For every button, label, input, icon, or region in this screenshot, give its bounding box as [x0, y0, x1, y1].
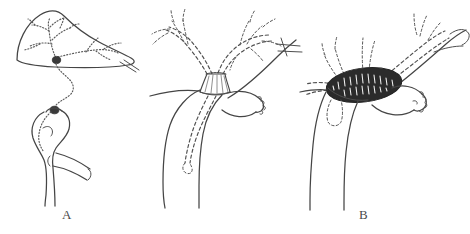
panel-b-drawing [150, 0, 310, 234]
panel-c: C [300, 0, 470, 234]
right-duct-twig-a [250, 10, 255, 22]
portal-vessel-branch-c [281, 38, 287, 56]
hilar-stricture-cuff [200, 74, 230, 94]
left-hepatic-duct-parallel [169, 27, 212, 74]
liver-outline [17, 11, 134, 68]
intramural-duct [39, 112, 51, 152]
pancreatic-segment-lower [53, 166, 87, 180]
left-duct-branch-far-left-2 [153, 33, 168, 44]
left-duct-twig-b [183, 9, 185, 21]
duct-crossing-detail [48, 156, 50, 166]
obstructed-right-duct-twig-a [420, 15, 427, 36]
intrahepatic-duct-branch-right-main [58, 50, 118, 57]
right-duct-twig-b [263, 19, 275, 27]
gallbladder-lower [222, 110, 256, 117]
left-duct-twig-a [171, 9, 174, 22]
gallbladder-fundus [414, 94, 426, 111]
cystic-duct-terminus [183, 163, 192, 174]
gallbladder-lower [372, 105, 414, 115]
portal-vessel [228, 40, 296, 98]
duct-wall-right [344, 101, 358, 210]
residual-duct-stump [327, 100, 343, 126]
duct-wall-lateral [150, 90, 200, 96]
panel-a-label: A [62, 208, 72, 221]
common-bile-duct [55, 64, 73, 107]
obstructed-central-duct-b [369, 40, 375, 71]
hilar-nodule [52, 56, 60, 63]
duct-wall-lateral [300, 90, 327, 92]
obstructed-central-duct-a [362, 38, 363, 72]
portal-vessel-hook [450, 30, 469, 46]
obstructed-left-duct-twig-a [322, 42, 325, 55]
duodenal-loop-outer [32, 112, 47, 206]
pancreatic-segment-upper [56, 153, 90, 169]
right-duct-branch-upper-2 [247, 26, 262, 44]
duodenal-loop-notch [43, 127, 53, 137]
obstructed-left-duct-b [335, 48, 344, 74]
intrahepatic-duct-branch-upper-left [32, 25, 49, 31]
panel-a: A [0, 0, 160, 234]
intrahepatic-duct-branch-mid-right [52, 28, 70, 40]
distal-nodule [50, 106, 59, 114]
gallbladder-scallop-edge [419, 92, 427, 112]
obstructed-right-duct-parallel [392, 38, 449, 80]
panel-a-drawing [0, 0, 160, 234]
right-duct-branch-lateral [251, 49, 263, 61]
gallbladder-neck-detail [413, 101, 417, 104]
obstructed-left-duct-a [324, 54, 338, 78]
pancreatic-segment-tip [88, 169, 91, 180]
duct-wall-right [199, 95, 222, 208]
obstructed-right-duct-twig-c [414, 14, 417, 35]
left-duct-branch-upper [172, 21, 184, 42]
intrahepatic-duct-branch-left-lower [24, 44, 40, 50]
duct-wall-left [310, 92, 326, 210]
intrahepatic-duct-branch-right-lower [96, 51, 111, 60]
intrahepatic-duct-branch-mid-left [30, 43, 52, 46]
panel-b: B [150, 0, 310, 234]
figure-container: A [0, 0, 470, 234]
panel-c-drawing [300, 0, 470, 234]
duct-wall-left [163, 90, 200, 208]
obstructed-left-duct-twig-b [335, 36, 337, 49]
duodenal-loop-inner [52, 111, 69, 206]
